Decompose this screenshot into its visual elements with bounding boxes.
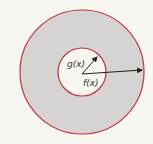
inner-circle xyxy=(58,48,106,96)
outer-radius-label: f(x) xyxy=(83,78,99,88)
washer-diagram: g(x) f(x) xyxy=(0,0,153,144)
inner-radius-label: g(x) xyxy=(67,59,85,69)
